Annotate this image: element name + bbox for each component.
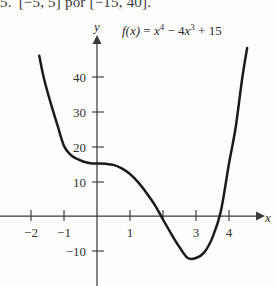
y-tick-label-30: 30 xyxy=(73,105,86,120)
x-tick-label-3: 3 xyxy=(193,225,200,240)
x-tick-label-1: 1 xyxy=(127,225,134,240)
x-tick-label--1: −1 xyxy=(57,225,71,240)
y-tick-label-20: 20 xyxy=(73,140,86,155)
y-tick-label--10: −10 xyxy=(66,244,86,259)
x-tick-label--2: −2 xyxy=(24,225,38,240)
y-axis-label: y xyxy=(92,19,100,34)
figure-container: 5.[−5, 5] por [−15, 40]. f(x) = x4 − 4x3… xyxy=(0,0,276,286)
x-axis-label: x xyxy=(264,210,271,225)
y-tick-label-40: 40 xyxy=(73,70,86,85)
x-tick-label-4: 4 xyxy=(226,225,233,240)
y-tick-label-10: 10 xyxy=(73,175,86,190)
function-graph: −2 −1 1 3 4 40 30 20 10 −10 x y xyxy=(0,0,276,286)
y-axis-arrowhead xyxy=(93,35,102,44)
x-axis-arrowhead xyxy=(256,212,265,221)
